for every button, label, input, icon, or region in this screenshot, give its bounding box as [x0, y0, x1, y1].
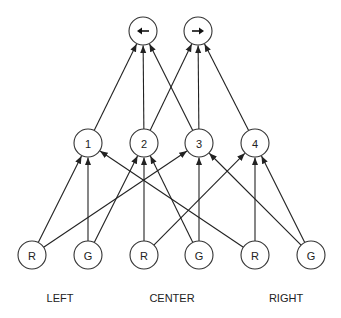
node-label: R	[140, 250, 148, 262]
node-label: 2	[141, 138, 147, 150]
edge-h4-to-right-out	[205, 44, 249, 131]
input-node-in-left-g: G	[74, 241, 102, 269]
edge-h1-to-left-out	[94, 44, 136, 130]
neural-network-diagram: 1234RGRGRG LEFT CENTER RIGHT	[0, 0, 341, 318]
output-node-left-out	[129, 17, 157, 45]
hidden-node-h4: 4	[241, 129, 269, 157]
node-label: G	[195, 250, 204, 262]
node-label: G	[307, 250, 316, 262]
nodes-layer: 1234RGRGRG	[18, 17, 325, 269]
group-label-left: LEFT	[47, 292, 74, 304]
group-label-center: CENTER	[149, 292, 194, 304]
edge-in-right-g-to-h4	[261, 156, 304, 243]
hidden-node-h3: 3	[185, 129, 213, 157]
input-node-in-center-g: G	[185, 241, 213, 269]
input-node-in-left-r: R	[18, 241, 46, 269]
edge-in-left-r-to-h1	[38, 156, 81, 243]
hidden-node-h2: 2	[130, 129, 158, 157]
output-node-right-out	[184, 17, 212, 45]
edge-in-left-g-to-h2	[94, 156, 137, 243]
edge-h3-to-right-out	[198, 45, 199, 129]
node-label: 4	[252, 138, 258, 150]
input-node-in-center-r: R	[130, 241, 158, 269]
node-label: R	[251, 250, 259, 262]
node-label: 1	[85, 138, 91, 150]
input-node-in-right-g: G	[297, 241, 325, 269]
node-label: R	[28, 250, 36, 262]
node-label: 3	[196, 138, 202, 150]
input-node-in-right-r: R	[241, 241, 269, 269]
hidden-node-h1: 1	[74, 129, 102, 157]
node-label: G	[84, 250, 93, 262]
group-labels: LEFT CENTER RIGHT	[47, 292, 304, 304]
group-label-right: RIGHT	[269, 292, 304, 304]
edge-h2-to-left-out	[143, 45, 144, 129]
